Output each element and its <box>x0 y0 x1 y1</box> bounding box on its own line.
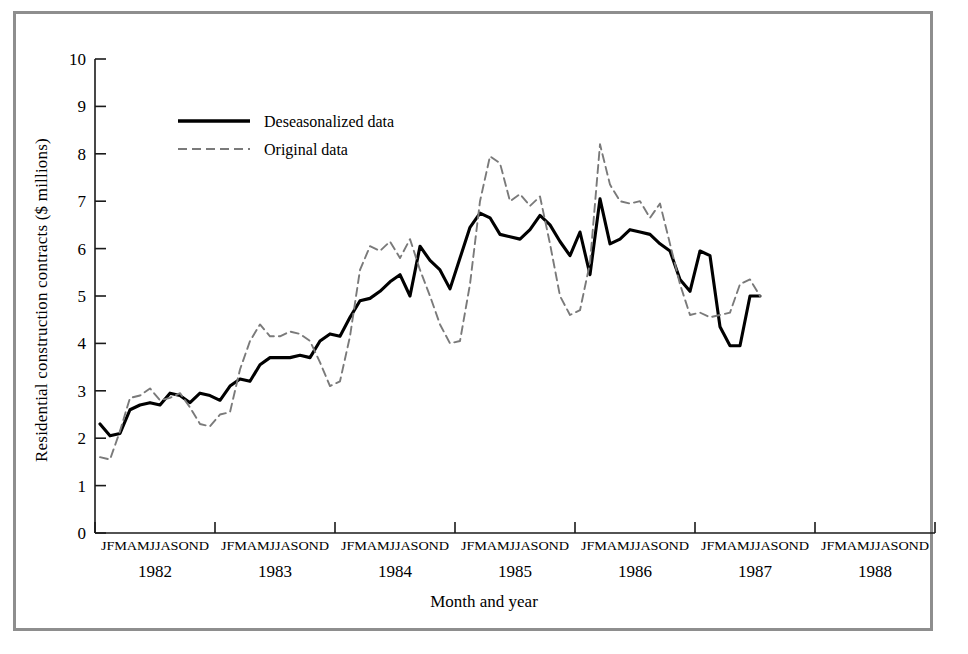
legend-label-1: Deseasonalized data <box>264 113 394 130</box>
plot-area: 012345678910JFMAMJJASOND1982JFMAMJJASOND… <box>0 0 968 654</box>
y-tick-label: 0 <box>78 524 87 543</box>
x-month-letters: JFMAMJJASOND <box>341 539 449 553</box>
y-tick-label: 3 <box>78 382 87 401</box>
x-month-letters: JFMAMJJASOND <box>581 539 689 553</box>
y-tick-label: 5 <box>78 287 87 306</box>
x-month-letters: JFMAMJJASOND <box>461 539 569 553</box>
x-month-letters: JFMAMJJASOND <box>101 539 209 553</box>
y-tick-label: 2 <box>78 429 87 448</box>
series-line-deseasonalized-data <box>100 199 760 436</box>
figure-container: 012345678910JFMAMJJASOND1982JFMAMJJASOND… <box>0 0 968 654</box>
y-tick-label: 7 <box>78 192 87 211</box>
x-month-letters: JFMAMJJASOND <box>821 539 929 553</box>
x-year-label: 1985 <box>498 562 532 581</box>
x-year-label: 1986 <box>618 562 652 581</box>
x-year-label: 1982 <box>138 562 172 581</box>
x-year-label: 1984 <box>378 562 413 581</box>
x-month-letters: JFMAMJJASOND <box>221 539 329 553</box>
y-tick-label: 10 <box>69 50 86 69</box>
x-axis-title: Month and year <box>0 592 968 612</box>
y-tick-label: 4 <box>78 334 87 353</box>
y-tick-label: 8 <box>78 145 87 164</box>
series-line-original-data <box>100 144 760 459</box>
x-month-letters: JFMAMJJASOND <box>701 539 809 553</box>
y-tick-label: 6 <box>78 240 87 259</box>
x-year-label: 1987 <box>738 562 773 581</box>
y-tick-label: 9 <box>78 97 87 116</box>
chart-svg: 012345678910JFMAMJJASOND1982JFMAMJJASOND… <box>0 0 968 654</box>
x-year-label: 1983 <box>258 562 292 581</box>
legend-label-2: Original data <box>264 141 348 159</box>
y-tick-label: 1 <box>78 477 87 496</box>
y-axis-title: Residential construction contracts ($ mi… <box>32 70 52 530</box>
x-year-label: 1988 <box>858 562 892 581</box>
